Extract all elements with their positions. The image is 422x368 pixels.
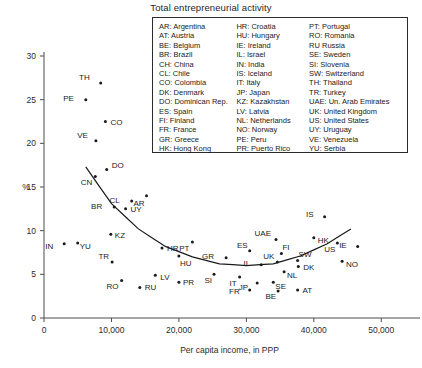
legend-entry: CO: Colombia [159, 78, 236, 87]
legend-entry: JP: Japan [236, 88, 309, 97]
legend-entry: LV: Latvia [236, 107, 309, 116]
legend-entry: ES: Spain [159, 107, 236, 116]
point-label: LV [160, 273, 170, 282]
data-point-uy: UY [124, 205, 142, 214]
legend-column-3: PT: PortugalRO: RomaniaRU RussiaSE: Swed… [309, 22, 402, 149]
point-label: US [324, 245, 335, 254]
point-label: PT [179, 244, 189, 253]
country-code-legend: AR: ArgentinaAT: AustriaBE: BelgiumBR: B… [152, 17, 408, 153]
data-point-nl: NL [283, 270, 298, 280]
data-point-uae: UAE [255, 229, 278, 241]
point-marker [256, 282, 259, 285]
point-label: VE [77, 131, 88, 140]
data-point-pe: PE [63, 94, 87, 103]
point-marker [248, 289, 251, 292]
legend-entry: PE: Peru [236, 135, 309, 144]
point-label: ES [237, 241, 248, 250]
legend-entry: TH: Thailand [309, 78, 402, 87]
data-point-fi: FI [280, 243, 290, 255]
point-marker [276, 261, 279, 264]
point-marker [341, 260, 344, 263]
legend-entry: SI: Slovenia [309, 60, 402, 69]
x-tick-label: 40,000 [301, 325, 327, 335]
point-marker [213, 273, 216, 276]
legend-column-1: AR: ArgentinaAT: AustriaBE: BelgiumBR: B… [159, 22, 236, 149]
x-tick-label: 30,000 [233, 325, 259, 335]
point-marker [277, 289, 280, 292]
point-label: GR [202, 252, 214, 261]
point-label: FR [229, 287, 240, 296]
point-label: UK [263, 252, 275, 261]
data-point-is: IS [306, 210, 326, 219]
data-point-hu: HU [177, 255, 191, 269]
point-marker [84, 98, 87, 101]
chart-container: Total entrepreneurial activity 051015202… [0, 0, 422, 368]
data-point-pr: PR [177, 278, 194, 287]
data-point-ie: IE [339, 241, 359, 250]
legend-entry: IS: Iceland [236, 69, 309, 78]
point-label: HK [318, 236, 330, 245]
legend-entry: IN: India [236, 60, 309, 69]
legend-entry: IL: Israel [236, 50, 309, 59]
point-marker [154, 274, 157, 277]
x-tick-label: 0 [42, 325, 47, 335]
point-marker [323, 215, 326, 218]
point-marker [238, 276, 241, 279]
legend-entry: FR: France [159, 125, 236, 134]
point-label: TR [98, 252, 109, 261]
legend-entry: HK: Hong Kong [159, 144, 236, 153]
legend-entry: BE: Belgium [159, 41, 236, 50]
point-label: BE [265, 292, 276, 301]
point-label: IE [339, 241, 347, 250]
point-marker [99, 82, 102, 85]
point-label: TH [79, 73, 90, 82]
point-label: PE [63, 94, 74, 103]
point-marker [105, 168, 108, 171]
point-marker [63, 242, 66, 245]
legend-entry: RO: Romania [309, 31, 402, 40]
y-tick-label: 30 [27, 51, 37, 61]
point-marker [113, 206, 116, 209]
point-marker [104, 120, 107, 123]
x-tick-label: 10,000 [98, 325, 124, 335]
y-tick-label: 25 [27, 95, 37, 105]
legend-entry: HU: Hungary [236, 31, 309, 40]
data-point-gr: GR [202, 252, 228, 261]
point-label: DK [303, 263, 315, 272]
point-label: JP [239, 283, 248, 292]
data-point-uk: UK [263, 252, 279, 264]
point-label: IN [45, 242, 53, 251]
data-point-si: SI [204, 273, 215, 286]
point-marker [225, 256, 228, 259]
legend-entry: FI: Finland [159, 116, 236, 125]
point-label: PR [183, 278, 194, 287]
point-marker [94, 139, 97, 142]
point-label: SE [275, 282, 286, 291]
point-label: UY [131, 205, 143, 214]
point-label: NO [346, 260, 358, 269]
point-marker [275, 238, 278, 241]
legend-entry: KZ: Kazakhstan [236, 97, 309, 106]
data-point-no: NO [341, 260, 359, 270]
point-marker [260, 263, 263, 266]
legend-entry: HR: Croatia [236, 22, 309, 31]
legend-entry: DO: Dominican Rep. [159, 97, 236, 106]
point-label: DO [112, 161, 124, 170]
legend-entry: SW: Switzerland [309, 69, 402, 78]
data-point-tr: TR [98, 252, 113, 264]
legend-entry: PT: Portugal [309, 22, 402, 31]
point-label: RU [145, 283, 157, 292]
y-tick-label: 10 [27, 226, 37, 236]
x-tick-label: 20,000 [166, 325, 192, 335]
point-label: IL [244, 259, 251, 268]
x-axis-title: Per capita income, in PPP [180, 345, 279, 355]
data-point-es: ES [237, 241, 251, 253]
point-marker [312, 236, 315, 239]
point-label: SW [299, 250, 312, 259]
point-label: RO [107, 282, 119, 291]
legend-entry: US: United States [309, 116, 402, 125]
point-marker [296, 289, 299, 292]
legend-entry: CH: China [159, 60, 236, 69]
data-point-ro: RO [107, 279, 124, 292]
x-tick-label: 50,000 [368, 325, 394, 335]
